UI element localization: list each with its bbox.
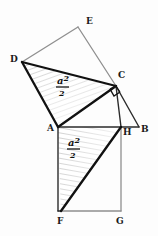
vertex-label-G: G	[116, 216, 124, 226]
vertex-label-A: A	[46, 123, 55, 133]
area-upper-denominator: 2	[58, 88, 65, 98]
svg-text:2: 2	[58, 88, 65, 98]
vertex-label-H: H	[123, 127, 132, 137]
area-upper-exponent: 2	[62, 73, 69, 83]
svg-text:2: 2	[69, 150, 76, 160]
geometry-figure: D E C A H B F G a2 2 a2 2	[0, 0, 158, 236]
area-lower-denominator: 2	[69, 150, 76, 160]
vertex-label-D: D	[10, 54, 18, 64]
area-lower-exponent: 2	[73, 135, 80, 145]
vertex-label-F: F	[57, 216, 64, 226]
vertex-label-B: B	[141, 124, 149, 134]
vertex-label-C: C	[118, 70, 125, 80]
vertex-label-E: E	[86, 16, 93, 26]
figure-canvas: D E C A H B F G a2 2 a2 2	[0, 0, 158, 236]
